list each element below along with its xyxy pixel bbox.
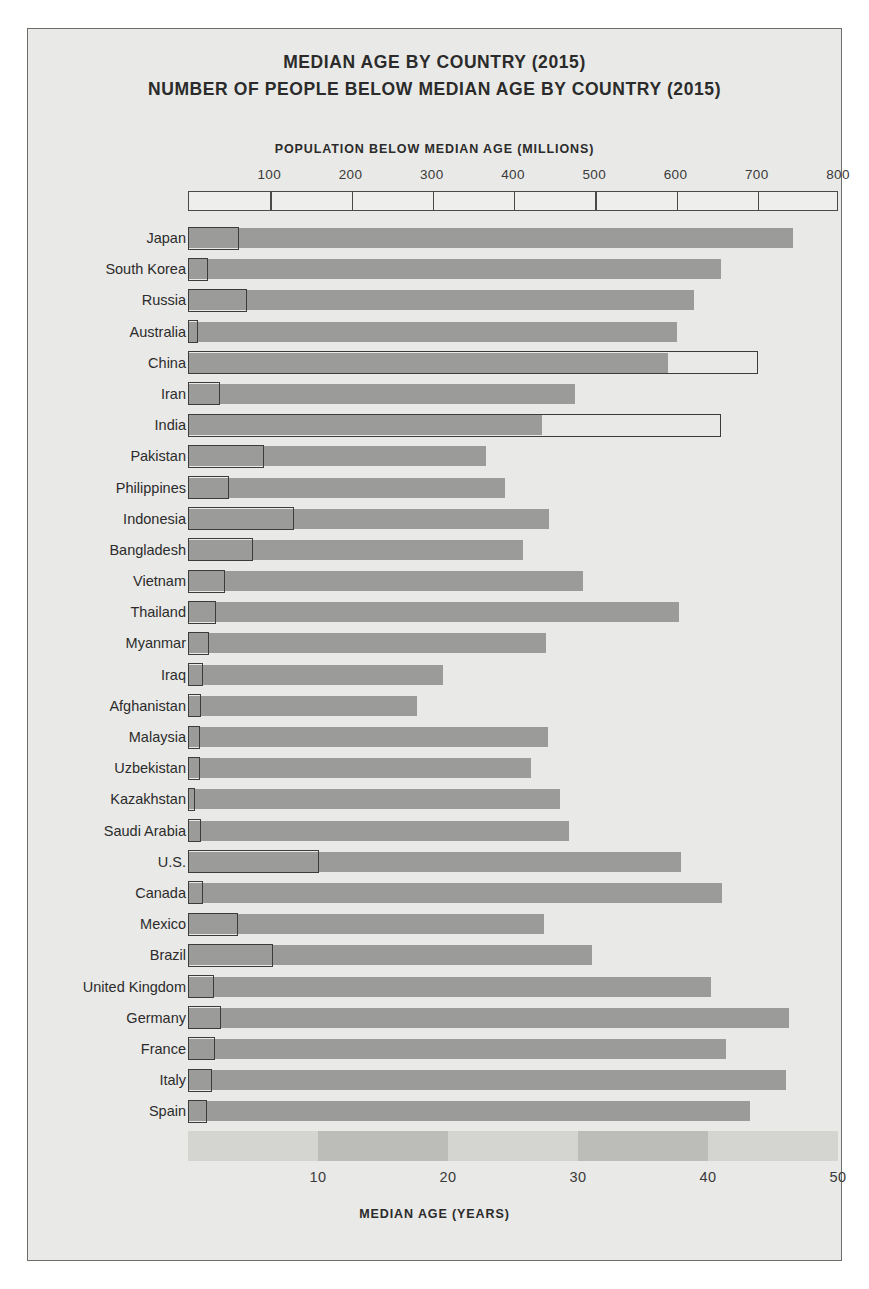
country-label: Germany — [126, 1003, 186, 1034]
median-age-bar — [188, 1101, 750, 1121]
country-label: U.S. — [158, 847, 186, 878]
top-tick-label: 600 — [664, 167, 688, 182]
population-below-median-box — [188, 320, 198, 343]
median-age-bar — [188, 259, 721, 279]
median-age-bar — [188, 696, 417, 716]
bar-row: Canada — [188, 878, 838, 909]
population-below-median-box — [188, 663, 203, 686]
median-age-bar — [188, 228, 793, 248]
top-tick-mark — [514, 192, 515, 210]
population-below-median-box — [188, 757, 200, 780]
population-below-median-box — [188, 632, 209, 655]
country-label: Spain — [149, 1096, 186, 1127]
population-below-median-box — [188, 726, 200, 749]
country-label: Bangladesh — [109, 535, 186, 566]
bar-row: Bangladesh — [188, 535, 838, 566]
country-label: Mexico — [140, 909, 186, 940]
median-age-bar — [188, 571, 583, 591]
bottom-scale-band — [188, 1131, 838, 1161]
median-age-bar — [188, 821, 569, 841]
median-age-bar — [188, 478, 505, 498]
median-age-bar — [188, 1070, 786, 1090]
top-tick-mark — [595, 192, 596, 210]
population-below-median-box — [188, 382, 220, 405]
bar-row: South Korea — [188, 254, 838, 285]
top-tick-mark — [433, 192, 434, 210]
population-below-median-box — [188, 538, 253, 561]
top-tick-label: 400 — [501, 167, 525, 182]
bar-row: Philippines — [188, 473, 838, 504]
median-age-bar — [188, 322, 677, 342]
median-age-bar — [188, 727, 548, 747]
top-tick-label: 200 — [339, 167, 363, 182]
country-label: Thailand — [130, 597, 186, 628]
country-label: Kazakhstan — [110, 784, 186, 815]
chart-figure: MEDIAN AGE BY COUNTRY (2015) NUMBER OF P… — [27, 28, 842, 1261]
median-age-bar — [188, 1039, 726, 1059]
median-age-bar — [188, 789, 560, 809]
population-below-median-box — [188, 1069, 212, 1092]
country-label: France — [141, 1034, 186, 1065]
bar-row: Indonesia — [188, 504, 838, 535]
band-segment — [578, 1131, 708, 1161]
country-label: Australia — [130, 317, 186, 348]
bar-row: Myanmar — [188, 628, 838, 659]
country-label: Saudi Arabia — [104, 816, 186, 847]
population-below-median-box — [188, 289, 247, 312]
population-below-median-box — [188, 1006, 221, 1029]
top-tick-label: 500 — [582, 167, 606, 182]
bar-row: Iraq — [188, 660, 838, 691]
median-age-bar — [188, 914, 544, 934]
median-age-bar — [188, 290, 694, 310]
population-below-median-box — [188, 570, 225, 593]
median-age-bar — [188, 883, 722, 903]
bar-row: Iran — [188, 379, 838, 410]
top-axis-ticklabels: 100200300400500600700800 — [188, 167, 838, 183]
bar-row: China — [188, 348, 838, 379]
bar-rows: JapanSouth KoreaRussiaAustraliaChinaIran… — [188, 223, 838, 1127]
population-below-median-box — [188, 258, 208, 281]
median-age-bar — [188, 633, 546, 653]
country-label: Indonesia — [123, 504, 186, 535]
bar-row: Afghanistan — [188, 691, 838, 722]
top-axis-scalebar — [188, 191, 838, 211]
median-age-bar — [188, 665, 443, 685]
country-label: Japan — [146, 223, 186, 254]
bottom-tick-label: 20 — [440, 1169, 457, 1185]
population-below-median-box — [188, 414, 721, 437]
population-below-median-box — [188, 507, 294, 530]
top-tick-mark — [270, 192, 271, 210]
country-label: Vietnam — [133, 566, 186, 597]
bar-row: Saudi Arabia — [188, 816, 838, 847]
population-below-median-box — [188, 694, 201, 717]
country-label: Philippines — [116, 473, 186, 504]
median-age-bar — [188, 384, 575, 404]
population-below-median-box — [188, 601, 216, 624]
population-below-median-box — [188, 913, 238, 936]
bar-row: Australia — [188, 317, 838, 348]
bottom-tick-label: 50 — [830, 1169, 847, 1185]
country-label: Russia — [142, 285, 186, 316]
country-label: Canada — [135, 878, 186, 909]
population-below-median-box — [188, 351, 758, 374]
bottom-axis-title: MEDIAN AGE (YEARS) — [28, 1207, 841, 1221]
population-below-median-box — [188, 850, 319, 873]
bar-row: Brazil — [188, 940, 838, 971]
country-label: Iraq — [161, 660, 186, 691]
top-tick-mark — [677, 192, 678, 210]
country-label: Afghanistan — [109, 691, 186, 722]
bottom-tick-label: 10 — [310, 1169, 327, 1185]
median-age-bar — [188, 1008, 789, 1028]
bar-row: Malaysia — [188, 722, 838, 753]
bar-row: Germany — [188, 1003, 838, 1034]
bar-row: U.S. — [188, 847, 838, 878]
country-label: Pakistan — [130, 441, 186, 472]
bottom-tick-label: 40 — [700, 1169, 717, 1185]
country-label: Brazil — [150, 940, 186, 971]
population-below-median-box — [188, 788, 195, 811]
country-label: Myanmar — [126, 628, 186, 659]
country-label: China — [148, 348, 186, 379]
population-below-median-box — [188, 227, 239, 250]
population-below-median-box — [188, 881, 203, 904]
population-below-median-box — [188, 819, 201, 842]
